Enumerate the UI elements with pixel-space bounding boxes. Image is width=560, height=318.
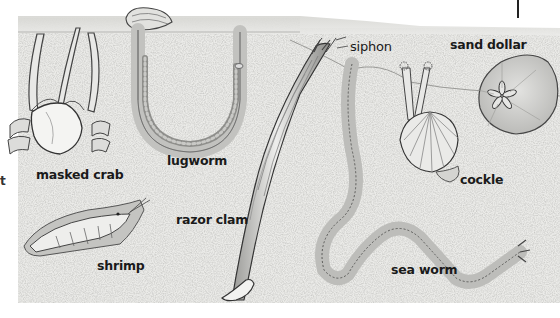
label-shrimp: shrimp [97,258,145,273]
label-razor-clam: razor clam [176,212,248,227]
label-sand-dollar: sand dollar [450,37,527,52]
page-divider-line [517,0,519,18]
label-lugworm: lugworm [167,153,227,168]
cropped-text-fragment: t [0,174,6,188]
label-siphon: siphon [350,39,392,54]
label-sea-worm: sea worm [391,262,457,277]
sand-surface [18,16,560,36]
seashore-sand-diagram: t masked crab lugworm siphon sand dollar… [0,0,560,318]
label-cockle: cockle [460,172,503,187]
label-masked-crab: masked crab [36,167,123,182]
